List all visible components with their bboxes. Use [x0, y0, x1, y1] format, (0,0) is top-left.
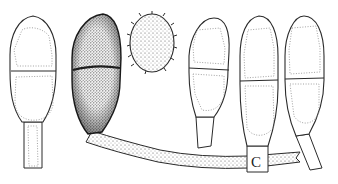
spore-2 — [72, 14, 121, 134]
spore-1 — [10, 16, 56, 168]
spore-4 — [189, 18, 229, 148]
spore-illustration: C — [0, 0, 338, 184]
spore-5: C — [240, 16, 278, 172]
label-c: C — [251, 154, 261, 170]
spore-6 — [285, 16, 324, 170]
spore-3 — [127, 11, 177, 74]
